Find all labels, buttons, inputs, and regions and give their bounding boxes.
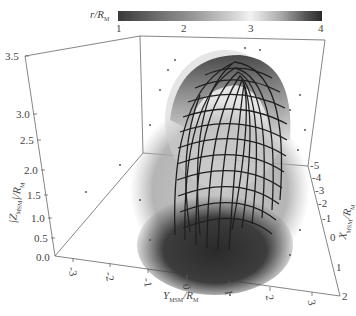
x-tick: -4 bbox=[312, 172, 321, 183]
3d-scatter-figure: r/RM 1 2 3 4 bbox=[0, 0, 356, 316]
x-tick: 2 bbox=[342, 291, 348, 302]
z-tick: 2.5 bbox=[20, 135, 34, 146]
z-tick: 3.5 bbox=[5, 51, 19, 62]
z-tick: 1.5 bbox=[27, 190, 41, 201]
z-tick: 3.0 bbox=[16, 109, 30, 120]
z-tick: 0.0 bbox=[36, 252, 50, 263]
y-tick: -2 bbox=[103, 271, 115, 282]
x-tick: -5 bbox=[310, 160, 319, 171]
y-tick: -1 bbox=[141, 277, 153, 288]
x-tick: -2 bbox=[318, 198, 327, 209]
x-tick: -1 bbox=[322, 213, 331, 224]
y-axis-title: YMSM/RM bbox=[163, 289, 198, 303]
z-tick: 1.0 bbox=[31, 213, 45, 224]
plot-area bbox=[0, 0, 356, 316]
x-tick: -3 bbox=[315, 185, 324, 196]
x-tick: 0 bbox=[330, 232, 336, 243]
z-tick: 0.5 bbox=[34, 233, 48, 244]
x-tick: 1 bbox=[336, 262, 342, 273]
y-tick: 3 bbox=[306, 299, 318, 306]
z-tick: 2.0 bbox=[24, 165, 38, 176]
y-tick: -3 bbox=[66, 266, 78, 277]
